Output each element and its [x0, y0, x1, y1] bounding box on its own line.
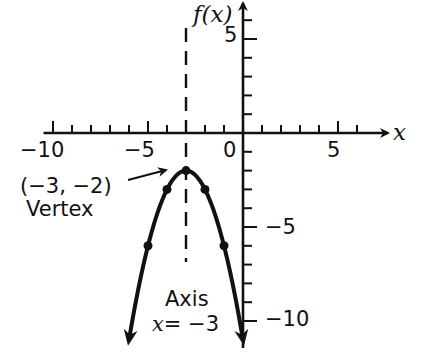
axis-equation-label: x= −3	[152, 314, 219, 335]
axis-equation-value: = −3	[164, 312, 219, 336]
x-axis-label: x	[393, 121, 406, 144]
y-tick-label-neg5: −5	[265, 217, 296, 238]
x-tick-label-neg10: −10	[20, 140, 64, 161]
x-tick-label-neg5: −5	[124, 140, 155, 161]
y-tick-label-neg10: −10	[265, 309, 309, 330]
axis-label: Axis	[165, 289, 209, 310]
vertex-coordinates-label: (−3, −2)	[20, 176, 112, 197]
y-tick-label-5: 5	[224, 25, 237, 46]
x-tick-label-5: 5	[327, 140, 340, 161]
axis-ticks	[53, 20, 357, 321]
x-tick-label-0: 0	[223, 140, 236, 161]
axis-equation-variable: x	[152, 312, 164, 336]
vertex-pointer-arrow	[128, 170, 166, 180]
vertex-label: Vertex	[26, 199, 94, 220]
